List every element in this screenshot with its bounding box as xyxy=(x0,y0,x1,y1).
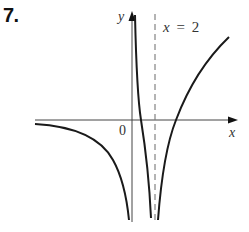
asymptote-label-eq: = xyxy=(176,19,184,35)
curve-right-branch xyxy=(158,37,229,220)
x-axis xyxy=(35,117,238,124)
curve-left-branch xyxy=(35,124,129,220)
asymptote-label: x = 2 xyxy=(162,19,199,35)
origin-label: 0 xyxy=(119,123,126,138)
x-axis-arrow-icon xyxy=(228,117,238,124)
asymptote-label-val: 2 xyxy=(192,19,200,35)
x-axis-label: x xyxy=(228,125,236,140)
y-axis-label: y xyxy=(116,9,125,24)
function-graph: y x 0 x = 2 xyxy=(0,0,249,232)
y-axis xyxy=(129,11,136,222)
curve-middle-branch xyxy=(135,15,151,218)
asymptote-label-var: x xyxy=(162,19,170,35)
